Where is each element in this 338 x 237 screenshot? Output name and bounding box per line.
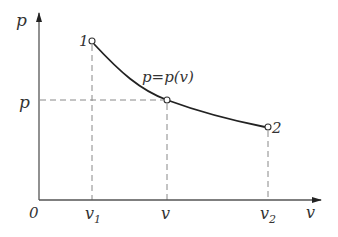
- tick-v-label: v: [161, 204, 170, 223]
- pv-diagram: p p 0 v 1 2 p=p(v) v1 v v2: [0, 0, 338, 237]
- point-1-marker: [89, 38, 95, 44]
- x-axis-label: v: [306, 203, 315, 222]
- p-level-label: p: [19, 92, 30, 112]
- point-1-label: 1: [79, 32, 89, 50]
- point-mid-marker: [164, 97, 170, 103]
- tick-v1-subscript: 1: [94, 213, 101, 226]
- y-axis-label: p: [16, 10, 27, 30]
- tick-v1-label: v1: [85, 204, 101, 226]
- point-2-marker: [265, 124, 271, 130]
- tick-v2-subscript: 2: [268, 213, 276, 226]
- curve-equation-label: p=p(v): [142, 68, 194, 86]
- tick-v2-label: v2: [260, 204, 276, 226]
- origin-label: 0: [29, 204, 39, 222]
- point-2-label: 2: [271, 119, 282, 137]
